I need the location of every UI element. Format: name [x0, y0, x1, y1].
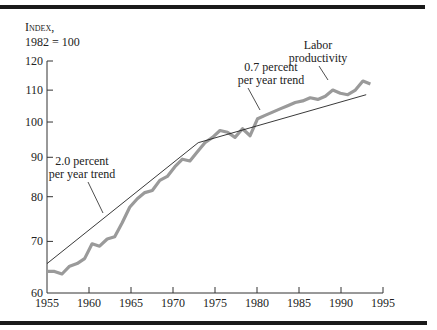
y-tick-label: 110: [25, 83, 43, 97]
y-tick-label: 90: [31, 150, 43, 164]
x-tick-label: 1975: [203, 296, 227, 310]
productivity-chart: 6070809010011012019551960196519701975198…: [0, 0, 437, 330]
x-tick-label: 1970: [161, 296, 185, 310]
x-tick-label: 1955: [35, 296, 59, 310]
pointer-2pct: [88, 182, 103, 213]
y-tick-label: 100: [25, 115, 43, 129]
annotation-07pct-line2: per year trend: [238, 73, 305, 87]
annotation-productivity-line2: productivity: [289, 51, 348, 65]
annotation-2pct-line2: per year trend: [49, 167, 116, 181]
annotation-2pct-line1: 2.0 percent: [55, 154, 109, 168]
annotations: 2.0 percent per year trend 0.7 percent p…: [49, 38, 348, 213]
x-tick-label: 1960: [77, 296, 101, 310]
x-tick-label: 1990: [329, 296, 353, 310]
pointer-07pct: [248, 88, 260, 110]
x-tick-label: 1995: [371, 296, 395, 310]
y-tick-label: 80: [31, 190, 43, 204]
y-tick-label: 70: [31, 234, 43, 248]
x-tick-label: 1965: [119, 296, 143, 310]
x-tick-label: 1980: [245, 296, 269, 310]
annotation-productivity-line1: Labor: [304, 38, 333, 52]
y-tick-label: 120: [25, 54, 43, 68]
trend-line: [198, 95, 366, 143]
pointer-productivity: [319, 66, 328, 80]
x-tick-label: 1985: [287, 296, 311, 310]
